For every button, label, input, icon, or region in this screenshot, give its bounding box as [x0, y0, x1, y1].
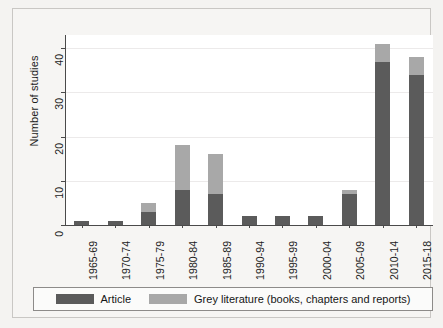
bar-stack [375, 44, 390, 225]
x-tick-mark [82, 225, 83, 228]
y-tick-label: 10 [53, 187, 65, 199]
y-tick-label: 20 [53, 143, 65, 155]
x-tick-mark [249, 225, 250, 228]
y-tick-label: 0 [53, 231, 65, 237]
x-tick-label: 1970-74 [120, 241, 132, 280]
x-tick-mark [349, 225, 350, 228]
y-tick-label: 40 [53, 54, 65, 66]
bar-series-group [65, 35, 433, 225]
x-tick-mark [149, 225, 150, 228]
bar-stack [275, 216, 290, 225]
bar-segment-article [375, 62, 390, 225]
bar-segment-grey-literature [375, 44, 390, 62]
y-tick-label: 30 [53, 98, 65, 110]
chart-legend: ArticleGrey literature (books, chapters … [33, 287, 433, 311]
bar-segment-article [409, 75, 424, 225]
x-tick-label: 1995-99 [287, 241, 299, 280]
legend-swatch [56, 294, 94, 304]
bar-segment-article [242, 216, 257, 225]
x-tick-mark [383, 225, 384, 228]
x-tick-label: 2000-04 [321, 241, 333, 280]
legend-label: Grey literature (books, chapters and rep… [194, 293, 410, 305]
x-axis-tick-labels: 1965-691970-741975-791980-841985-891990-… [65, 228, 433, 284]
legend-entry: Article [56, 293, 132, 305]
x-tick-mark [316, 225, 317, 228]
bar-segment-grey-literature [175, 145, 190, 189]
bar-segment-grey-literature [208, 154, 223, 194]
bar-segment-article [208, 194, 223, 225]
x-tick-mark [182, 225, 183, 228]
bar-stack [308, 216, 323, 225]
x-tick-label: 2010-14 [388, 241, 400, 280]
bar-stack [242, 216, 257, 225]
bar-segment-article [308, 216, 323, 225]
x-tick-mark [115, 225, 116, 228]
x-tick-label: 1965-69 [87, 241, 99, 280]
bar-segment-grey-literature [141, 203, 156, 212]
x-tick-label: 1975-79 [154, 241, 166, 280]
y-axis-title: Number of studies [28, 16, 40, 186]
x-tick-mark [282, 225, 283, 228]
x-tick-mark [216, 225, 217, 228]
figure-frame: Number of studies 010203040 1965-691970-… [12, 8, 431, 318]
x-tick-label: 2005-09 [354, 241, 366, 280]
legend-swatch [149, 294, 187, 304]
bar-segment-article [275, 216, 290, 225]
x-tick-mark [416, 225, 417, 228]
bar-segment-article [141, 212, 156, 225]
bar-segment-article [175, 190, 190, 225]
bar-segment-grey-literature [409, 57, 424, 75]
plot-region: 010203040 [65, 35, 433, 225]
x-tick-label: 1985-89 [221, 241, 233, 280]
x-tick-label: 1980-84 [187, 241, 199, 280]
x-tick-label: 2015-18 [421, 241, 433, 280]
bar-stack [175, 145, 190, 225]
bar-stack [141, 203, 156, 225]
bar-stack [342, 190, 357, 225]
bar-segment-article [342, 194, 357, 225]
bar-stack [208, 154, 223, 225]
figure-container: Number of studies 010203040 1965-691970-… [0, 0, 443, 328]
y-tick-mark [61, 225, 65, 226]
bar-stack [409, 57, 424, 225]
x-tick-label: 1990-94 [254, 241, 266, 280]
legend-entry: Grey literature (books, chapters and rep… [149, 293, 410, 305]
legend-label: Article [101, 293, 132, 305]
